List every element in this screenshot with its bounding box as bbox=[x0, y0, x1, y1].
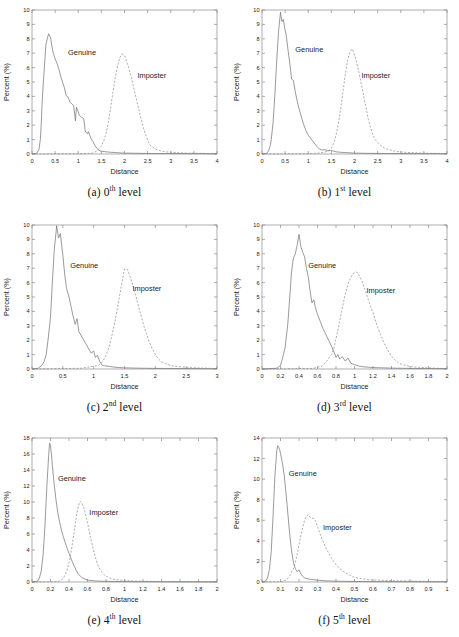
chart-panel-e: 00.20.40.60.811.21.41.61.820246810121416… bbox=[0, 428, 229, 637]
curve-genuine bbox=[32, 226, 217, 369]
y-tick-label: 8 bbox=[256, 497, 259, 503]
y-tick-label: 10 bbox=[253, 7, 259, 13]
x-tick-label: 2.5 bbox=[182, 373, 190, 379]
y-tick-label: 5 bbox=[256, 79, 259, 85]
y-tick-label: 6 bbox=[256, 517, 259, 523]
y-tick-label: 0 bbox=[26, 151, 29, 157]
x-tick-label: 0.6 bbox=[369, 586, 377, 592]
chart-svg-c: 00.511.522.53012345678910GenuineImposter… bbox=[0, 215, 229, 395]
x-tick-label: 0.2 bbox=[277, 373, 285, 379]
plot-frame bbox=[262, 10, 447, 154]
chart-svg-b: 00.511.522.533.54012345678910GenuineImpo… bbox=[230, 0, 459, 180]
x-tick-label: 3 bbox=[399, 158, 402, 164]
y-tick-label: 16 bbox=[23, 451, 29, 457]
panel-caption-d: (d) 3rd level bbox=[230, 401, 459, 413]
panel-caption-b: (b) 1st level bbox=[230, 186, 459, 198]
x-tick-label: 2.5 bbox=[144, 158, 152, 164]
y-tick-label: 9 bbox=[256, 236, 259, 242]
y-tick-label: 0 bbox=[256, 151, 259, 157]
y-tick-label: 7 bbox=[26, 265, 29, 271]
y-tick-label: 0 bbox=[256, 366, 259, 372]
curve-imposter bbox=[262, 272, 447, 369]
y-tick-label: 14 bbox=[23, 467, 29, 473]
plot-area-c: 00.511.522.53012345678910GenuineImposter… bbox=[0, 215, 229, 395]
x-tick-label: 0.8 bbox=[332, 373, 340, 379]
y-tick-label: 3 bbox=[256, 323, 259, 329]
y-axis-title: Percent (%) bbox=[232, 63, 241, 101]
plot-area-a: 00.511.522.533.54012345678910GenuineImpo… bbox=[0, 0, 229, 180]
y-tick-label: 1 bbox=[256, 137, 259, 143]
x-tick-label: 3.5 bbox=[420, 158, 428, 164]
caption-superscript: nd bbox=[109, 399, 117, 408]
x-tick-label: 0.2 bbox=[295, 586, 303, 592]
chart-svg-f: 00.10.20.30.40.50.60.70.80.9102468101214… bbox=[230, 428, 459, 608]
panel-caption-a: (a) 0th level bbox=[0, 186, 229, 198]
y-tick-label: 8 bbox=[26, 251, 29, 257]
x-tick-label: 0.8 bbox=[102, 586, 110, 592]
x-tick-label: 2 bbox=[123, 158, 126, 164]
y-tick-label: 9 bbox=[256, 21, 259, 27]
caption-superscript: st bbox=[340, 184, 345, 193]
x-tick-label: 3 bbox=[169, 158, 172, 164]
y-tick-label: 2 bbox=[26, 337, 29, 343]
y-tick-label: 5 bbox=[256, 294, 259, 300]
x-tick-label: 1.2 bbox=[139, 586, 147, 592]
y-tick-label: 6 bbox=[26, 280, 29, 286]
x-tick-label: 1.5 bbox=[327, 158, 335, 164]
y-tick-label: 0 bbox=[26, 366, 29, 372]
series-annotation-imposter: Imposter bbox=[361, 71, 390, 80]
y-axis-title: Percent (%) bbox=[232, 491, 241, 529]
x-tick-label: 0.5 bbox=[351, 586, 359, 592]
y-tick-label: 0 bbox=[26, 579, 29, 585]
panel-caption-e: (e) 4th level bbox=[0, 614, 229, 626]
y-tick-label: 3 bbox=[256, 108, 259, 114]
x-tick-label: 1 bbox=[307, 158, 310, 164]
x-tick-label: 1.5 bbox=[97, 158, 105, 164]
curve-imposter bbox=[32, 269, 217, 369]
x-tick-label: 1.6 bbox=[176, 586, 184, 592]
series-annotation-genuine: Genuine bbox=[68, 48, 96, 57]
y-tick-label: 10 bbox=[253, 476, 259, 482]
y-tick-label: 3 bbox=[26, 323, 29, 329]
plot-area-e: 00.20.40.60.811.21.41.61.820246810121416… bbox=[0, 428, 229, 608]
y-tick-label: 3 bbox=[26, 108, 29, 114]
y-tick-label: 8 bbox=[26, 36, 29, 42]
x-tick-label: 1.6 bbox=[406, 373, 414, 379]
y-tick-label: 7 bbox=[256, 50, 259, 56]
y-tick-label: 6 bbox=[26, 65, 29, 71]
figure-grid: 00.511.522.533.54012345678910GenuineImpo… bbox=[0, 0, 459, 637]
x-tick-label: 0.8 bbox=[406, 586, 414, 592]
series-annotation-genuine: Genuine bbox=[70, 261, 98, 270]
y-tick-label: 4 bbox=[26, 308, 29, 314]
x-tick-label: 1.8 bbox=[195, 586, 203, 592]
x-tick-label: 0.4 bbox=[65, 586, 73, 592]
y-tick-label: 10 bbox=[23, 222, 29, 228]
curve-genuine bbox=[262, 446, 447, 582]
x-tick-label: 3 bbox=[215, 373, 218, 379]
y-tick-label: 1 bbox=[256, 352, 259, 358]
y-tick-label: 8 bbox=[256, 36, 259, 42]
y-tick-label: 18 bbox=[23, 435, 29, 441]
x-tick-label: 0.2 bbox=[47, 586, 55, 592]
x-tick-label: 1.8 bbox=[425, 373, 433, 379]
curve-genuine bbox=[32, 443, 217, 582]
chart-panel-f: 00.10.20.30.40.50.60.70.80.9102468101214… bbox=[230, 428, 459, 637]
y-tick-label: 4 bbox=[256, 308, 259, 314]
caption-superscript: rd bbox=[340, 399, 346, 408]
series-annotation-genuine: Genuine bbox=[308, 261, 336, 270]
x-tick-label: 1 bbox=[92, 373, 95, 379]
y-axis-title: Percent (%) bbox=[2, 63, 11, 101]
chart-panel-d: 00.20.40.60.811.21.41.61.82012345678910G… bbox=[230, 215, 459, 427]
x-tick-label: 1.2 bbox=[369, 373, 377, 379]
y-tick-label: 0 bbox=[256, 579, 259, 585]
y-tick-label: 14 bbox=[253, 435, 259, 441]
y-tick-label: 12 bbox=[23, 483, 29, 489]
y-tick-label: 10 bbox=[23, 7, 29, 13]
x-tick-label: 0 bbox=[30, 158, 33, 164]
y-tick-label: 8 bbox=[26, 515, 29, 521]
x-tick-label: 0.9 bbox=[425, 586, 433, 592]
x-tick-label: 2 bbox=[215, 586, 218, 592]
x-tick-label: 0.6 bbox=[84, 586, 92, 592]
y-tick-label: 9 bbox=[26, 21, 29, 27]
curve-imposter bbox=[32, 501, 217, 582]
